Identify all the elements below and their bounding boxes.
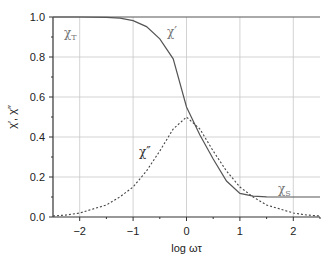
svg-text:−1: −1 <box>127 225 140 237</box>
svg-text:0.8: 0.8 <box>30 51 45 63</box>
x-tick-labels: −2 −1 0 1 2 <box>73 225 296 237</box>
x-axis-label: log ωτ <box>171 242 202 254</box>
svg-text:0.2: 0.2 <box>30 171 45 183</box>
svg-text:1: 1 <box>237 225 243 237</box>
svg-text:0.6: 0.6 <box>30 91 45 103</box>
chi-t-label: χT <box>64 26 77 42</box>
svg-text:−2: −2 <box>73 225 86 237</box>
chi-prime-label: χ′ <box>167 25 177 39</box>
y-axis-label: χ′, χ″ <box>6 105 18 129</box>
svg-text:0: 0 <box>183 225 189 237</box>
chart-figure: 1.0 0.8 0.6 0.4 0.2 0.0 −2 −1 0 1 2 log … <box>0 0 333 266</box>
svg-text:2: 2 <box>290 225 296 237</box>
x-ticks <box>80 217 320 221</box>
svg-text:0.4: 0.4 <box>30 131 45 143</box>
chi-double-prime-label: χ″ <box>139 145 151 159</box>
chi-s-label: χS <box>278 182 291 198</box>
svg-text:0.0: 0.0 <box>30 211 45 223</box>
svg-text:1.0: 1.0 <box>30 11 45 23</box>
y-tick-labels: 1.0 0.8 0.6 0.4 0.2 0.0 <box>30 11 45 223</box>
